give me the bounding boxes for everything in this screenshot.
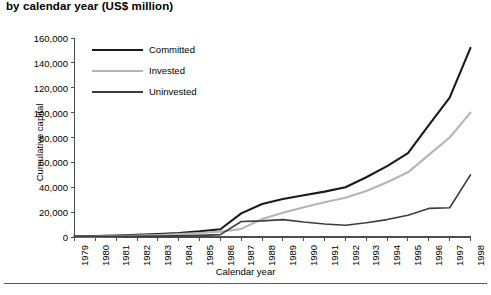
x-tick-label: 1992 [350, 245, 361, 266]
x-tick-label: 1984 [183, 245, 194, 266]
chart-series [75, 48, 471, 237]
y-axis-title: Cumulative capital [34, 63, 45, 223]
legend-label-committed: Committed [149, 44, 195, 55]
x-tick-label: 1990 [308, 245, 319, 266]
legend-label-invested: Invested [149, 65, 185, 76]
footer-divider [4, 283, 487, 284]
x-tick-label: 1986 [225, 245, 236, 266]
x-tick-label: 1983 [162, 245, 173, 266]
x-tick-label: 1985 [204, 245, 215, 266]
chart-figure: by calendar year (US$ million) 020,00040… [0, 0, 491, 295]
x-tick-label: 1995 [412, 245, 423, 266]
chart-axes [71, 38, 471, 241]
x-tick-label: 1987 [245, 245, 256, 266]
x-tick-label: 1989 [287, 245, 298, 266]
chart-legend-lines [92, 50, 143, 92]
x-tick-label: 1982 [141, 245, 152, 266]
x-tick-label: 1996 [433, 245, 444, 266]
x-tick-label: 1998 [475, 245, 486, 266]
x-tick-label: 1993 [370, 245, 381, 266]
series-line-committed [75, 48, 471, 236]
x-tick-label: 1994 [391, 245, 402, 266]
x-tick-label: 1979 [79, 245, 90, 266]
legend-label-uninvested: Uninvested [149, 86, 197, 97]
x-tick-label: 1991 [329, 245, 340, 266]
x-axis-title: Calendar year [0, 266, 491, 277]
x-tick-label: 1980 [100, 245, 111, 266]
x-tick-label: 1997 [454, 245, 465, 266]
y-tick-label: 160,000 [0, 33, 68, 44]
y-tick-label: 0 [0, 232, 68, 243]
series-line-uninvested [75, 175, 471, 237]
x-tick-label: 1988 [266, 245, 277, 266]
series-line-invested [75, 113, 471, 237]
x-tick-label: 1981 [120, 245, 131, 266]
